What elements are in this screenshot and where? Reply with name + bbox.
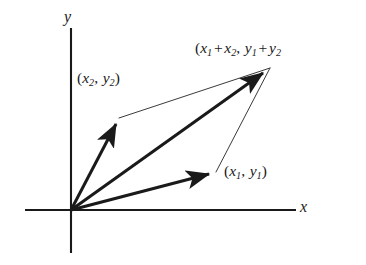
sum-plus-y: + [257, 39, 269, 56]
sum-plus-x: + [212, 39, 224, 56]
vector-v2-arrow [71, 124, 116, 210]
v1-y-base: y [250, 162, 257, 179]
figure-canvas [0, 0, 366, 265]
x-axis-label: x [300, 199, 307, 215]
sum-y2-base: y [269, 39, 276, 56]
vector-addition-figure: y x (x1+x2,y1+y2 (x2,y2) (x1,y1) [0, 0, 366, 265]
parallelogram-side-v2-to-sum [119, 68, 270, 118]
axes-group [25, 28, 296, 253]
sum-y2-subscript: 2 [276, 47, 281, 58]
v1-comma: , [241, 162, 245, 179]
sum-y1-base: y [245, 39, 252, 56]
sum-comma: , [236, 39, 240, 56]
label-vector-sum: (x1+x2,y1+y2 [195, 40, 281, 56]
y-axis-label: y [64, 9, 71, 25]
vector-v1-arrow [71, 174, 209, 210]
v2-y-base: y [103, 69, 110, 86]
v1-close-paren: ) [262, 162, 267, 179]
label-vector-v2: (x2,y2) [77, 70, 120, 86]
v2-close-paren: ) [115, 69, 120, 86]
vectors-group [71, 73, 263, 210]
v2-comma: , [94, 69, 98, 86]
label-vector-v1: (x1,y1) [224, 163, 267, 179]
vector-sum-arrow [71, 73, 263, 210]
